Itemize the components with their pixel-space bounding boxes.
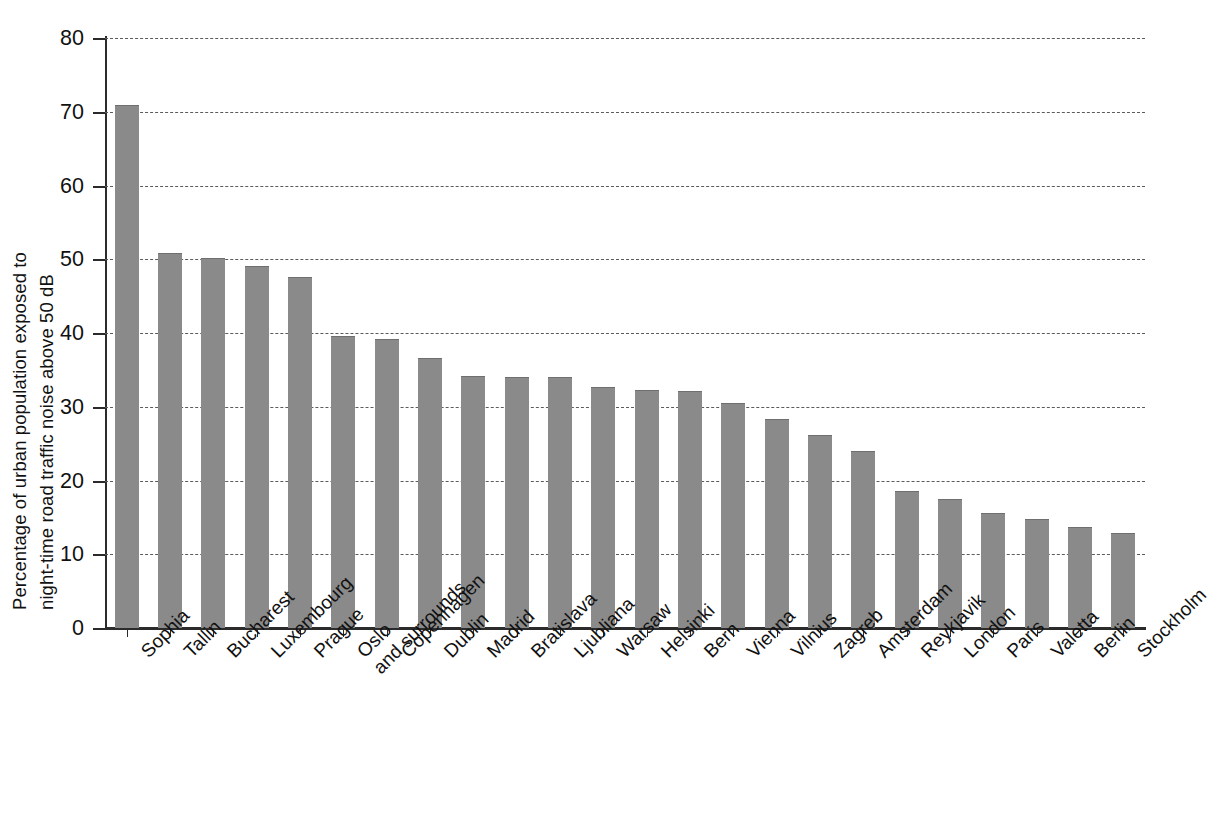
bar [548,377,572,628]
y-axis-tick-label: 80 [32,26,84,51]
bar-series [105,38,1145,628]
bar [1025,519,1049,628]
y-axis-tick-label: 20 [32,468,84,493]
bar [765,419,789,628]
y-axis-tick-label: 0 [32,616,84,641]
bar [375,339,399,628]
bar [721,403,745,628]
bar [505,377,529,628]
y-axis-tick-label: 50 [32,247,84,272]
bar [851,451,875,628]
bar [245,266,269,628]
y-axis-tick [93,628,107,630]
bar [288,277,312,628]
bar [591,387,615,628]
bar [635,390,659,628]
bar [201,258,225,628]
y-axis-tick-label: 70 [32,99,84,124]
y-axis-tick-label: 30 [32,394,84,419]
y-axis-tick-label: 10 [32,542,84,567]
y-axis-tick-label: 40 [32,321,84,346]
x-axis-tick [127,629,128,637]
bar [808,435,832,628]
bar [678,391,702,628]
y-axis-tick-label: 60 [32,173,84,198]
bar [115,105,139,628]
bar [158,253,182,628]
